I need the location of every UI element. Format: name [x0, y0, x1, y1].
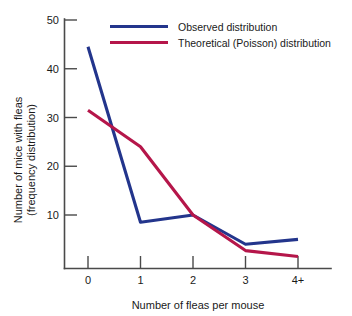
x-tick-label-group: 01234+ — [85, 274, 304, 286]
legend-item-theoretical[interactable]: Theoretical (Poisson) distribution — [110, 37, 331, 49]
legend-label-theoretical: Theoretical (Poisson) distribution — [178, 37, 331, 49]
chart-container: 1020304050 01234+ Number of fleas per mo… — [0, 0, 352, 316]
axis-group — [65, 19, 332, 269]
series-line-theoretical — [88, 110, 298, 256]
x-tick-label-4+: 4+ — [292, 274, 305, 286]
y-tick-label-10: 10 — [47, 209, 59, 221]
y-tick-group — [65, 20, 78, 215]
y-tick-label-40: 40 — [47, 63, 59, 75]
y-axis-title-line1: Number of mice with fleas — [12, 96, 24, 223]
x-tick-label-1: 1 — [137, 274, 143, 286]
legend-label-observed: Observed distribution — [178, 21, 277, 33]
legend-item-observed[interactable]: Observed distribution — [110, 21, 277, 33]
y-tick-label-30: 30 — [47, 112, 59, 124]
x-tick-label-2: 2 — [190, 274, 196, 286]
series-group — [88, 47, 298, 257]
y-tick-label-50: 50 — [47, 14, 59, 26]
legend: Observed distribution Theoretical (Poiss… — [110, 21, 331, 49]
x-axis-title: Number of fleas per mouse — [132, 299, 265, 311]
y-tick-label-20: 20 — [47, 160, 59, 172]
y-axis-title-line2: (frequency distribution) — [25, 104, 37, 216]
x-tick-label-0: 0 — [85, 274, 91, 286]
x-tick-label-3: 3 — [242, 274, 248, 286]
flea-distribution-chart: 1020304050 01234+ Number of fleas per mo… — [0, 0, 352, 316]
y-tick-label-group: 1020304050 — [47, 14, 59, 221]
x-tick-group — [88, 256, 298, 269]
